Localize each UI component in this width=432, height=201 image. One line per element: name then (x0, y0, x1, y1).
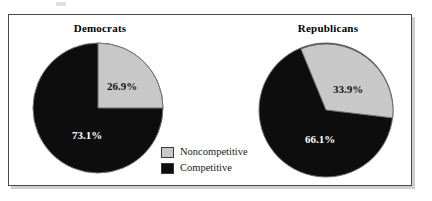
legend-swatch-noncompetitive-icon (161, 147, 174, 158)
pie-label-competitive-republicans: 66.1% (305, 133, 335, 145)
legend-swatch-competitive-icon (161, 163, 174, 174)
legend-label-noncompetitive: Noncompetitive (180, 147, 248, 158)
pie-chart-republicans: 33.9% 66.1% (258, 42, 394, 178)
pie-republicans-svg: 33.9% 66.1% (258, 42, 394, 178)
chart-title-democrats: Democrats (34, 22, 166, 34)
pie-label-competitive-democrats: 73.1% (72, 129, 102, 141)
legend: Noncompetitive Competitive (161, 145, 257, 177)
scan-artifact (56, 2, 66, 6)
legend-item-noncompetitive: Noncompetitive (161, 145, 257, 160)
legend-item-competitive: Competitive (161, 161, 257, 176)
pie-chart-democrats: 26.9% 73.1% (32, 42, 164, 174)
legend-label-competitive: Competitive (180, 163, 232, 174)
pie-slice-noncompetitive-democrats (98, 43, 163, 108)
chart-title-republicans: Republicans (258, 22, 398, 34)
pie-label-noncompetitive-republicans: 33.9% (333, 83, 363, 95)
pie-label-noncompetitive-democrats: 26.9% (107, 80, 137, 92)
pie-democrats-svg: 26.9% 73.1% (32, 42, 164, 174)
pie-chart-figure: Democrats 26.9% 73.1% Republicans 33.9% … (0, 0, 432, 201)
